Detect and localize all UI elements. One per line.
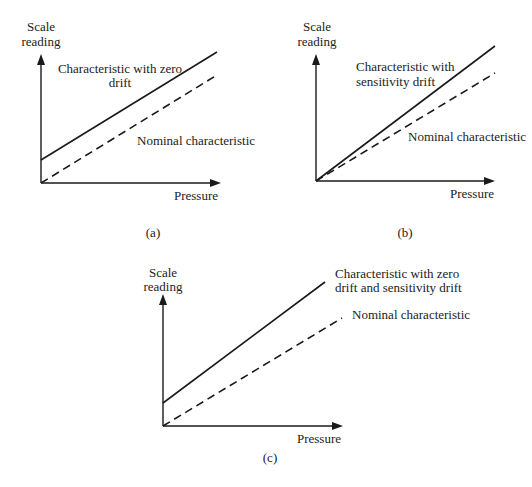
x-axis-label: Pressure (297, 431, 341, 446)
y-axis-arrow-icon (37, 54, 45, 65)
panel-caption: (b) (397, 225, 412, 240)
y-axis-label: reading (144, 279, 183, 294)
nominal-line (41, 75, 217, 183)
y-axis-label: Scale (149, 265, 177, 280)
y-axis-label: Scale (303, 19, 331, 34)
nominal-line-label: Nominal characteristic (408, 129, 526, 144)
x-axis-label: Pressure (450, 186, 494, 201)
panel-caption: (c) (263, 450, 277, 465)
y-axis-label: reading (22, 34, 61, 49)
x-axis-arrow-icon (332, 422, 343, 430)
drift-line-label: sensitivity drift (356, 74, 435, 89)
y-axis-arrow-icon (312, 54, 320, 65)
x-axis-label: Pressure (174, 188, 218, 203)
drift-line-label: drift and sensitivity drift (335, 280, 462, 295)
drift-line-label: drift (109, 75, 132, 90)
x-axis-arrow-icon (484, 177, 495, 185)
y-axis-arrow-icon (159, 294, 167, 305)
nominal-line (163, 318, 342, 426)
panel-c: Scale reading Characteristic with zero d… (144, 265, 471, 465)
drift-line-label: Characteristic with zero (58, 61, 182, 76)
x-axis-arrow-icon (210, 179, 221, 187)
panel-caption: (a) (146, 225, 160, 240)
y-axis-label: reading (298, 34, 337, 49)
panel-a: Scale reading Characteristic with zero d… (22, 19, 256, 240)
panel-b: Scale reading Characteristic with sensit… (298, 19, 527, 240)
drift-line-label: Characteristic with zero (335, 266, 459, 281)
nominal-line (316, 73, 495, 181)
drift-line-label: Characteristic with (356, 59, 455, 74)
nominal-line-label: Nominal characteristic (137, 133, 255, 148)
nominal-line-label: Nominal characteristic (352, 307, 470, 322)
y-axis-label: Scale (27, 19, 55, 34)
drift-diagram: Scale reading Characteristic with zero d… (0, 0, 532, 487)
